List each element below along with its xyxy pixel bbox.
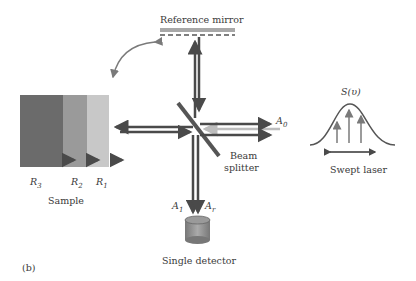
sample — [20, 95, 122, 167]
swept-laser-label: Swept laser — [330, 164, 387, 175]
sample-label: Sample — [48, 195, 84, 206]
beam-splitter-label-line2: splitter — [224, 162, 259, 173]
field-label-ar: Ar — [205, 200, 215, 214]
layer-r3 — [20, 95, 63, 167]
reference-arm-beams — [195, 37, 199, 118]
layer-r1 — [87, 95, 109, 167]
source-beams — [200, 124, 280, 135]
diagram-graphics — [0, 0, 416, 281]
gaussian-curve — [310, 104, 395, 145]
layer-label-r2: R2 — [71, 176, 83, 190]
reference-mirror — [160, 28, 235, 35]
curved-double-arrow — [113, 42, 155, 77]
swept-laser-spectrum — [310, 104, 395, 152]
beam-splitter-label-line1: Beam — [230, 150, 257, 161]
layer-label-r3: R3 — [30, 176, 42, 190]
panel-label: (b) — [22, 262, 36, 273]
spectrum-label: S(υ) — [341, 86, 361, 97]
detector-label: Single detector — [162, 255, 236, 266]
layer-label-r1: R1 — [96, 176, 108, 190]
oct-diagram: Reference mirror Beam splitter Sample Sw… — [0, 0, 416, 281]
reference-mirror-label: Reference mirror — [160, 14, 244, 25]
detector-beams — [193, 135, 198, 212]
detector — [185, 216, 210, 244]
sample-arm-beams — [116, 127, 193, 132]
field-label-a0: A0 — [276, 115, 287, 129]
layer-r2 — [63, 95, 87, 167]
field-label-a1: A1 — [172, 200, 183, 214]
